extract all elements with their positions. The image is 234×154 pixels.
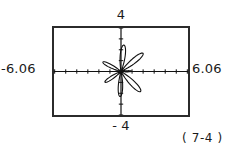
y-max-label: 4 <box>52 8 190 21</box>
polar-rose-plot <box>54 28 188 115</box>
x-max-label: 6.06 <box>192 62 222 75</box>
rose-curve <box>103 45 143 97</box>
calculator-viewing-window <box>52 26 190 117</box>
rose-curve-path <box>103 45 143 97</box>
y-min-label: - 4 <box>52 119 190 132</box>
x-min-label: -6.06 <box>1 62 36 75</box>
calculator-figure: -6.06 6.06 4 - 4 ( 7-4 ) <box>0 0 234 154</box>
figure-caption: ( 7-4 ) <box>182 131 223 145</box>
